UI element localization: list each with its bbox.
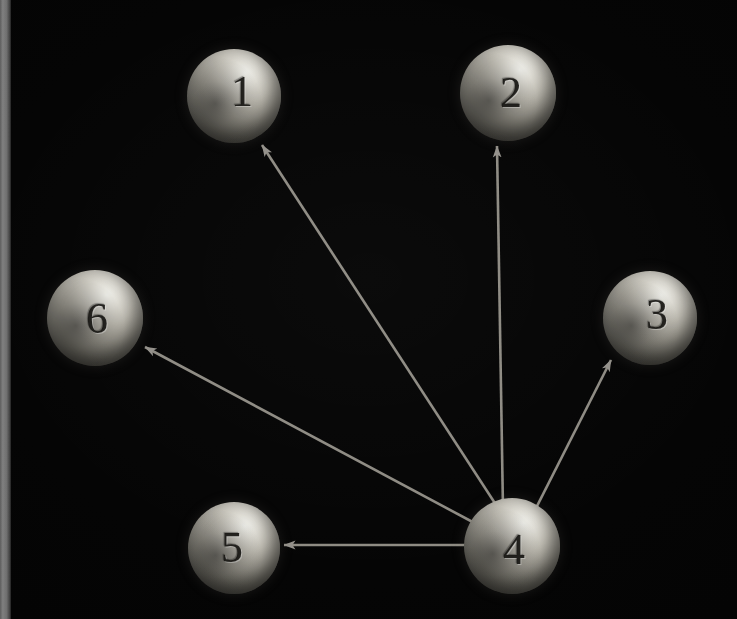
graph-node-label: 5 [221,526,243,570]
edge-4-to-6 [145,347,482,527]
graph-node-5[interactable]: 5 [188,502,280,594]
graph-figure: 123456 [0,0,737,619]
edge-4-to-1 [262,145,500,511]
graph-node-2[interactable]: 2 [460,45,556,141]
edge-4-to-2 [497,146,503,510]
graph-node-label: 2 [500,71,522,115]
graph-node-label: 6 [86,297,108,341]
graph-node-4[interactable]: 4 [464,498,560,594]
edge-4-to-3 [533,360,611,514]
graph-node-6[interactable]: 6 [47,270,143,366]
graph-node-3[interactable]: 3 [603,271,697,365]
graph-node-1[interactable]: 1 [187,49,281,143]
graph-node-label: 3 [646,293,668,337]
graph-node-label: 1 [231,70,253,114]
graph-node-label: 4 [503,528,525,572]
